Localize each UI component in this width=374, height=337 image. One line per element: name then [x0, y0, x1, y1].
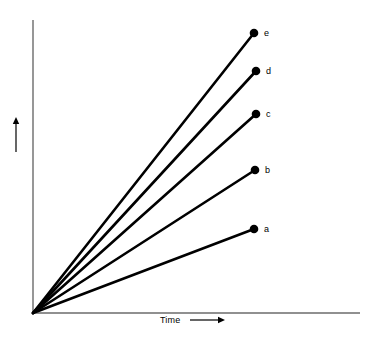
series-label-e: e	[264, 29, 269, 38]
series-label-d: d	[266, 67, 271, 76]
series-label-c: c	[266, 110, 271, 119]
series-marker-e	[250, 29, 259, 38]
series-lines-group	[33, 33, 256, 313]
series-marker-d	[252, 67, 261, 76]
series-marker-a	[250, 225, 259, 234]
series-marker-c	[252, 110, 261, 119]
series-line-c	[33, 114, 256, 313]
series-label-b: b	[265, 166, 270, 175]
chart-figure: a b c d e Time Product formed	[0, 0, 374, 337]
x-axis-title: Time	[160, 315, 180, 325]
chart-canvas	[0, 0, 374, 337]
arrow-right-icon	[190, 317, 225, 323]
arrow-up-icon	[13, 117, 19, 152]
series-label-a: a	[264, 225, 269, 234]
series-marker-b	[251, 166, 260, 175]
series-markers-group	[250, 29, 261, 234]
